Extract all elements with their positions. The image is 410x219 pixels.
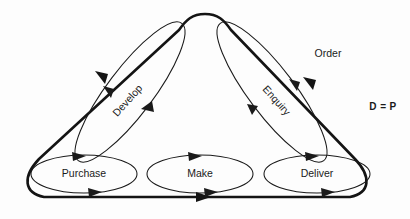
- diagram-svg: Order D = P Develop Enquiry Purchase Mak…: [0, 0, 410, 219]
- outer-right-flow-arrow: [303, 77, 316, 90]
- label-enquiry: Enquiry: [261, 83, 294, 118]
- purchase-arrow-top-left: [72, 152, 86, 161]
- make-arrow-top-left: [188, 152, 202, 161]
- label-make: Make: [187, 167, 213, 179]
- label-deliver: Deliver: [301, 167, 334, 179]
- make-arrow-bottom-right: [204, 188, 218, 197]
- deliver-arrow-top-left: [305, 152, 319, 161]
- deliver-arrow-bottom-right: [321, 188, 335, 197]
- outer-left-flow-arrow: [95, 71, 108, 84]
- label-order: Order: [315, 47, 342, 59]
- diagram-canvas: Order D = P Develop Enquiry Purchase Mak…: [0, 0, 410, 219]
- develop-arrow-up-right: [141, 101, 154, 112]
- label-purchase: Purchase: [62, 167, 107, 179]
- purchase-arrow-bottom-right: [88, 188, 102, 197]
- label-d-equals-p: D = P: [369, 101, 396, 112]
